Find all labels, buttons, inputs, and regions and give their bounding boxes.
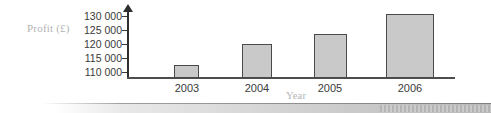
y-tick-label-120000: 120 000 xyxy=(84,39,122,50)
y-tick-label-115000: 115 000 xyxy=(85,53,122,64)
y-tick-label-110000: 110 000 xyxy=(85,67,122,78)
bar-2006 xyxy=(386,14,434,78)
bar-2003 xyxy=(174,65,199,78)
x-tick-label-2003: 2003 xyxy=(161,82,213,94)
bar-2004 xyxy=(242,44,272,78)
y-axis-title: Profit (£) xyxy=(27,22,70,34)
y-tick-label-130000: 130 000 xyxy=(84,11,122,22)
y-axis-line xyxy=(127,11,129,78)
bar-chart-figure: Profit (£) 130 000 125 000 120 000 115 0… xyxy=(0,0,491,113)
x-tick-label-2004: 2004 xyxy=(231,82,283,94)
x-axis-title: Year xyxy=(286,90,306,101)
y-tick-label-125000: 125 000 xyxy=(84,25,122,36)
scan-edge-line xyxy=(42,103,491,104)
x-tick-label-2006: 2006 xyxy=(384,82,436,94)
x-tick-label-2005: 2005 xyxy=(304,82,356,94)
scan-edge-texture xyxy=(380,105,491,112)
bar-2005 xyxy=(314,34,347,78)
